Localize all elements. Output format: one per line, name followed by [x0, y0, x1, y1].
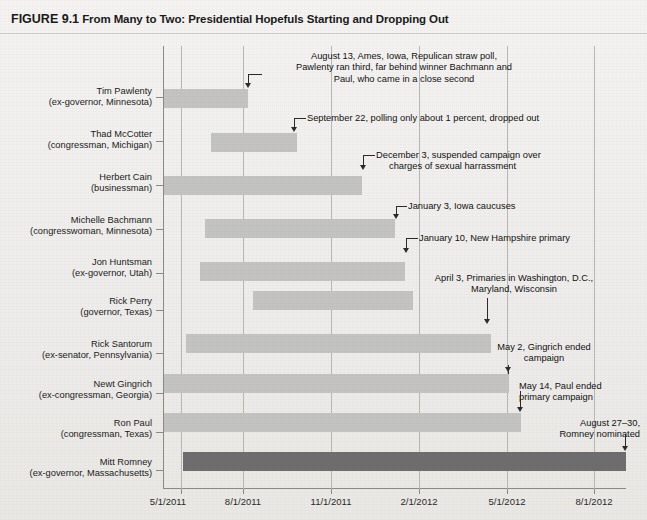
- annotation-huntsman: January 10, New Hampshire primary: [419, 233, 570, 244]
- row-label-santorum: Rick Santorum (ex-senator, Pennsylvania): [0, 339, 152, 361]
- annotation-bachmann: January 3, Iowa caucuses: [408, 201, 516, 212]
- arrowhead-mccotter: [291, 127, 297, 132]
- row-label-name: Rick Perry: [109, 296, 152, 306]
- row-label-name: Michelle Bachmann: [71, 215, 152, 225]
- row-label-name: Mitt Romney: [100, 457, 152, 467]
- annotation-line: August 27–30,: [500, 418, 640, 429]
- row-label-mccotter: Thad McCotter (congressman, Michigan): [0, 129, 152, 151]
- annotation-mccotter: September 22, polling only about 1 perce…: [307, 113, 539, 124]
- arrowhead-cain: [360, 165, 366, 170]
- x-axis-label-4: 5/1/2012: [489, 496, 526, 507]
- row-label-cain: Herbert Cain (businessman): [0, 172, 152, 194]
- y-tick-0: [156, 97, 164, 98]
- title-divider: [0, 33, 647, 34]
- row-label-detail: (congressman, Michigan): [0, 140, 152, 151]
- figure-title-text: From Many to Two: Presidential Hopefuls …: [82, 13, 448, 25]
- x-axis-label-0: 5/1/2011: [150, 496, 186, 507]
- annotation-cain: December 3, suspended campaign over char…: [376, 150, 586, 173]
- annotation-pawlenty: August 13, Ames, Iowa, Repulican straw p…: [258, 51, 550, 85]
- annotation-line: August 13, Ames, Iowa, Repulican straw p…: [258, 51, 550, 62]
- x-axis-line: [163, 488, 626, 489]
- x-axis-label-2: 11/1/2011: [311, 496, 352, 507]
- x-tick-3: [419, 489, 420, 494]
- annotation-line: primary campaign: [519, 392, 639, 403]
- row-label-huntsman: Jon Huntsman (ex-governor, Utah): [0, 257, 152, 279]
- leader-line-pawlenty: [248, 74, 262, 75]
- annotation-santorum: May 2, Gingrich ended campaign: [474, 342, 614, 365]
- row-label-detail: (ex-governor, Massachusetts): [0, 468, 152, 479]
- arrowhead-perry: [484, 319, 490, 324]
- leader-line-cain: [363, 155, 375, 156]
- y-tick-6: [156, 353, 164, 354]
- annotation-perry: April 3, Primaries in Washington, D.C., …: [424, 273, 604, 296]
- row-label-detail: (ex-governor, Utah): [0, 268, 152, 279]
- row-label-detail: (ex-governor, Minnesota): [0, 97, 152, 108]
- row-label-detail: (businessman): [0, 183, 152, 194]
- annotation-line: Romney nominated: [500, 429, 640, 440]
- x-tick-4: [507, 489, 508, 494]
- x-axis-label-5: 8/1/2012: [576, 496, 613, 507]
- y-tick-8: [156, 432, 164, 433]
- figure-title: FIGURE 9.1 From Many to Two: Presidentia…: [11, 12, 449, 26]
- bar-paul: [164, 413, 521, 432]
- y-tick-5: [156, 310, 164, 311]
- y-tick-4: [156, 273, 164, 274]
- row-label-name: Herbert Cain: [99, 172, 152, 182]
- bar-mccotter: [211, 133, 297, 152]
- row-label-detail: (congresswoman, Minnesota): [0, 226, 152, 237]
- x-tick-2: [331, 489, 332, 494]
- row-label-name: Jon Huntsman: [92, 257, 152, 267]
- annotation-line: May 14, Paul ended: [519, 381, 639, 392]
- annotation-line: May 2, Gingrich ended: [474, 342, 614, 353]
- arrowhead-bachmann: [393, 214, 399, 219]
- row-label-name: Newt Gingrich: [94, 379, 152, 389]
- bar-huntsman: [200, 262, 405, 281]
- arrowhead-huntsman: [403, 248, 409, 253]
- bar-bachmann: [205, 219, 395, 238]
- row-label-paul: Ron Paul (congressman, Texas): [0, 418, 152, 440]
- y-tick-1: [156, 141, 164, 142]
- bar-gingrich: [164, 374, 509, 393]
- arrowhead-romney: [622, 446, 628, 451]
- row-label-detail: (congressman, Texas): [0, 429, 152, 440]
- leader-line-huntsman: [406, 238, 418, 239]
- annotation-line: Pawlenty ran third, far behind winner Ba…: [258, 62, 550, 73]
- row-label-name: Thad McCotter: [91, 129, 152, 139]
- arrowhead-pawlenty: [245, 83, 251, 88]
- y-tick-2: [156, 185, 164, 186]
- annotation-line: September 22, polling only about 1 perce…: [307, 113, 539, 124]
- row-label-romney: Mitt Romney (ex-governor, Massachusetts): [0, 457, 152, 479]
- annotation-romney: August 27–30, Romney nominated: [500, 418, 640, 441]
- annotation-line: January 3, Iowa caucuses: [408, 201, 516, 212]
- annotation-line: December 3, suspended campaign over: [376, 150, 586, 161]
- row-label-bachmann: Michelle Bachmann (congresswoman, Minnes…: [0, 215, 152, 237]
- bar-perry: [253, 291, 413, 310]
- x-axis-label-1: 8/1/2011: [225, 496, 261, 507]
- arrowhead-santorum: [505, 367, 511, 372]
- row-label-perry: Rick Perry (governor, Texas): [0, 296, 152, 318]
- x-tick-5: [594, 489, 595, 494]
- y-tick-9: [156, 470, 164, 471]
- leader-line-mccotter: [294, 118, 306, 119]
- x-axis-label-3: 2/1/2012: [401, 496, 438, 507]
- annotation-line: April 3, Primaries in Washington, D.C.,: [424, 273, 604, 284]
- leader-stem-perry: [487, 298, 488, 320]
- row-label-detail: (governor, Texas): [0, 307, 152, 318]
- annotation-gingrich: May 14, Paul ended primary campaign: [519, 381, 639, 404]
- y-tick-3: [156, 229, 164, 230]
- figure-number: FIGURE 9.1: [11, 12, 79, 26]
- x-tick-0: [181, 489, 182, 494]
- x-tick-1: [243, 489, 244, 494]
- row-label-pawlenty: Tim Pawlenty (ex-governor, Minnesota): [0, 86, 152, 108]
- annotation-line: charges of sexual harrassment: [376, 161, 586, 172]
- annotation-line: Maryland, Wisconsin: [424, 284, 604, 295]
- row-label-name: Ron Paul: [114, 418, 152, 428]
- bar-santorum: [186, 334, 491, 353]
- leader-line-bachmann: [396, 206, 407, 207]
- arrowhead-gingrich: [517, 407, 523, 412]
- row-label-detail: (ex-congressman, Georgia): [0, 390, 152, 401]
- y-tick-7: [156, 393, 164, 394]
- annotation-line: January 10, New Hampshire primary: [419, 233, 570, 244]
- bar-romney: [183, 452, 626, 471]
- annotation-line: campaign: [474, 353, 614, 364]
